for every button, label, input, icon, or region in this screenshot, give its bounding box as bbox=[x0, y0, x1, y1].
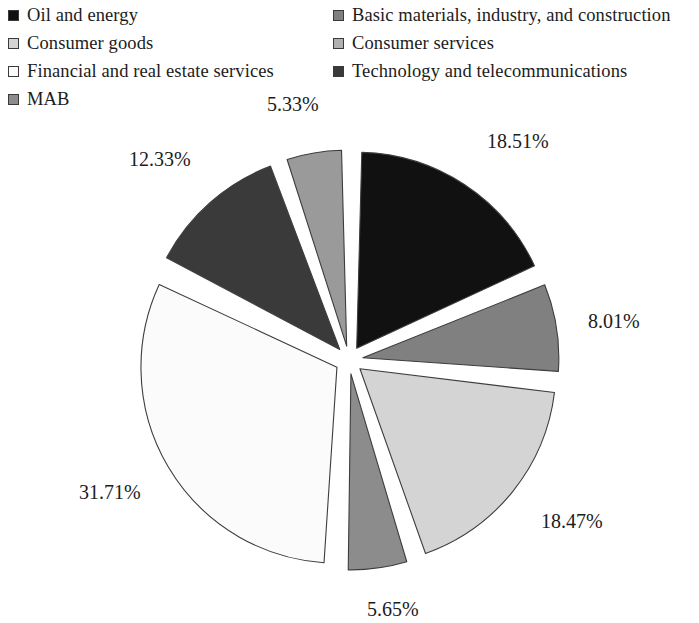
pie-chart-area: 18.51%8.01%18.47%5.65%31.71%12.33%5.33% bbox=[0, 0, 699, 623]
pie-slice-value-label: 12.33% bbox=[129, 149, 191, 169]
pie-slice-value-label: 31.71% bbox=[79, 482, 141, 502]
pie-slice-value-label: 18.51% bbox=[487, 131, 549, 151]
pie-slices-group bbox=[141, 150, 559, 570]
pie-chart-figure: Oil and energyBasic materials, industry,… bbox=[0, 0, 699, 623]
pie-slice-value-label: 5.33% bbox=[267, 94, 319, 114]
pie-slice-value-label: 5.65% bbox=[367, 599, 419, 619]
pie-slice-value-label: 18.47% bbox=[541, 511, 603, 531]
pie-slice-value-label: 8.01% bbox=[588, 311, 640, 331]
